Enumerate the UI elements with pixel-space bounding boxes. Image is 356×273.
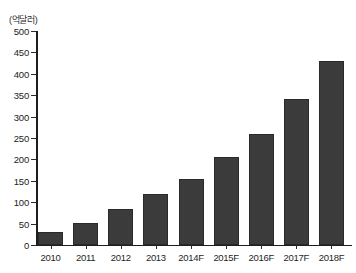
x-axis-tick-mark (51, 245, 52, 249)
y-axis-tick-mark (31, 95, 36, 96)
x-axis-tick-mark (296, 245, 297, 249)
bar (214, 157, 239, 245)
x-axis-tick-mark (226, 245, 227, 249)
y-axis-tick-mark (31, 31, 36, 32)
y-axis-tick-label: 150 (14, 175, 29, 186)
y-axis-tick-label: 0 (24, 240, 29, 251)
x-axis-tick-mark (86, 245, 87, 249)
x-axis-tick-label: 2013 (146, 252, 166, 263)
y-axis-tick-label: 300 (14, 111, 29, 122)
bar (284, 99, 309, 245)
y-axis-tick-mark (31, 181, 36, 182)
x-axis-tick-mark (156, 245, 157, 249)
bar (108, 209, 133, 245)
x-axis-tick-label: 2016F (249, 252, 274, 263)
y-axis-tick-label: 100 (14, 197, 29, 208)
x-axis-tick-label: 2015F (213, 252, 238, 263)
y-axis-tick-mark (31, 224, 36, 225)
bar (249, 134, 274, 245)
bar (143, 194, 168, 245)
y-axis-tick-mark (31, 52, 36, 53)
y-axis-tick-label: 350 (14, 90, 29, 101)
y-axis-tick-label: 250 (14, 133, 29, 144)
x-axis-tick-mark (261, 245, 262, 249)
bar (73, 223, 98, 245)
bar (38, 232, 63, 245)
x-axis-tick-label: 2010 (41, 252, 61, 263)
y-axis-unit-label: (억달러) (9, 13, 38, 26)
y-axis-tick-mark (31, 138, 36, 139)
y-axis-tick-mark (31, 245, 36, 246)
x-axis-tick-mark (191, 245, 192, 249)
x-axis-tick-label: 2011 (76, 252, 95, 263)
y-axis-tick-mark (31, 159, 36, 160)
y-axis-tick-label: 200 (14, 154, 29, 165)
y-axis-tick-label: 500 (14, 26, 29, 37)
y-axis-tick-label: 50 (19, 218, 29, 229)
y-axis-tick-label: 450 (14, 47, 29, 58)
x-axis-tick-mark (121, 245, 122, 249)
y-axis-tick-mark (31, 117, 36, 118)
bar-chart-figure: (억달러) 050100150200250300350400450500 201… (0, 0, 356, 273)
bar (319, 61, 344, 245)
x-axis-tick-label: 2018F (319, 252, 344, 263)
y-axis-tick-mark (31, 202, 36, 203)
x-axis-tick-label: 2014F (178, 252, 203, 263)
plot-area: 050100150200250300350400450500 (36, 31, 352, 245)
y-axis-tick-mark (31, 74, 36, 75)
x-axis-tick-label: 2012 (111, 252, 131, 263)
x-axis-tick-mark (331, 245, 332, 249)
x-axis-tick-label: 2017F (284, 252, 309, 263)
y-axis-tick-label: 400 (14, 68, 29, 79)
bar (179, 179, 204, 245)
